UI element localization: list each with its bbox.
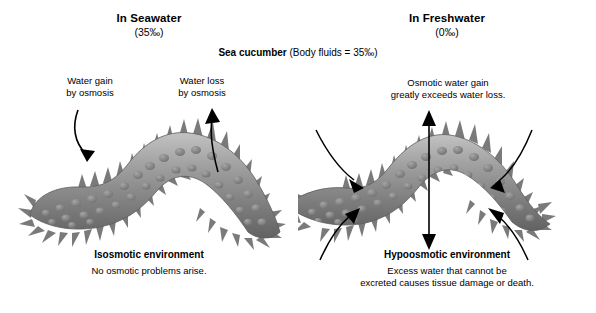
- panel-freshwater-footer-title: Hypoosmotic environment: [298, 249, 596, 260]
- inward-arrow-top-right: [490, 130, 532, 193]
- panel-freshwater-heading: In Freshwater: [298, 12, 596, 24]
- water-gain-arrow: [75, 110, 95, 162]
- panel-seawater-heading: In Seawater: [0, 12, 298, 24]
- annotation-water-gain: Water gain by osmosis: [48, 75, 132, 98]
- annotation-water-loss-line2: by osmosis: [160, 87, 244, 99]
- panel-freshwater-salinity: (0‰): [298, 26, 596, 38]
- vertical-double-arrow: [422, 110, 436, 250]
- annotation-osmotic-water-gain: Osmotic water gain greatly exceeds water…: [358, 77, 538, 100]
- annotation-water-gain-line2: by osmosis: [48, 87, 132, 99]
- annotation-water-loss-line1: Water loss: [160, 75, 244, 87]
- annotation-osmotic-gain-line1: Osmotic water gain: [358, 77, 538, 89]
- panel-freshwater-footer-text: Excess water that cannot be excreted cau…: [304, 265, 590, 288]
- panel-freshwater-footer-line1: Excess water that cannot be: [304, 265, 590, 277]
- panel-seawater-salinity: (35‰): [0, 26, 298, 38]
- panel-freshwater-footer-line2: excreted causes tissue damage or death.: [304, 277, 590, 289]
- organism-body-fluids: (Body fluids = 35‰): [287, 47, 378, 58]
- sea-cucumber-body-freshwater: [298, 135, 550, 231]
- inward-arrow-top-left: [316, 130, 364, 193]
- body-tubercles-freshwater: [308, 146, 534, 225]
- annotation-water-loss: Water loss by osmosis: [160, 75, 244, 98]
- organism-name: Sea cucumber: [218, 47, 286, 58]
- panel-seawater-footer-text: No osmotic problems arise.: [0, 265, 298, 277]
- body-tubercles-seawater: [42, 146, 266, 228]
- organism-caption: Sea cucumber (Body fluids = 35‰): [0, 47, 596, 58]
- annotation-water-gain-line1: Water gain: [48, 75, 132, 87]
- panel-seawater-footer-title: Isosmotic environment: [0, 249, 298, 260]
- body-spikes-freshwater: [298, 120, 556, 243]
- body-spikes-seawater: [18, 118, 286, 250]
- annotation-osmotic-gain-line2: greatly exceeds water loss.: [358, 89, 538, 101]
- sea-cucumber-body-seawater: [30, 133, 280, 238]
- water-loss-arrow: [205, 108, 220, 172]
